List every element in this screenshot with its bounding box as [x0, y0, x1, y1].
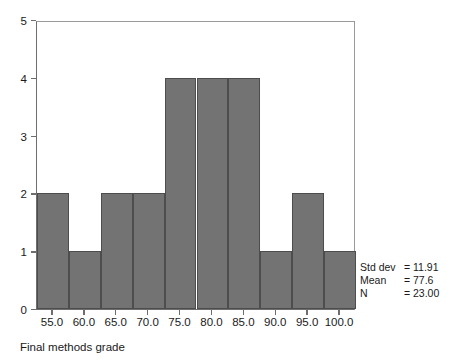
histogram-figure: 012345 55.060.065.070.075.080.085.090.09…: [0, 0, 458, 363]
x-axis-tick-mark: [338, 310, 339, 315]
statistic-name: Mean: [360, 274, 404, 287]
statistic-row: Std dev=11.91: [360, 261, 439, 274]
statistic-equals: =: [404, 261, 413, 274]
x-axis-tick-mark: [306, 310, 307, 315]
statistic-value: 77.6: [413, 274, 433, 287]
statistic-equals: =: [404, 274, 413, 287]
statistics-legend: Std dev=11.91Mean=77.6N=23.00: [360, 261, 439, 300]
x-axis-tick-label: 85.0: [232, 316, 254, 329]
statistic-name: Std dev: [360, 261, 404, 274]
statistic-row: N=23.00: [360, 287, 439, 300]
x-axis-tick-label: 90.0: [264, 316, 286, 329]
x-axis-tick-label: 100.0: [325, 316, 354, 329]
x-axis-tick-label: 60.0: [73, 316, 95, 329]
statistic-value: 23.00: [413, 287, 439, 300]
x-axis-tick-label: 75.0: [168, 316, 190, 329]
x-axis-tick-mark: [115, 310, 116, 315]
x-axis-tick-mark: [51, 310, 52, 315]
x-axis-tick-label: 65.0: [105, 316, 127, 329]
statistic-equals: =: [404, 287, 413, 300]
x-axis-tick-mark: [179, 310, 180, 315]
x-axis: 55.060.065.070.075.080.085.090.095.0100.…: [0, 0, 458, 363]
x-axis-tick-mark: [83, 310, 84, 315]
x-axis-title: Final methods grade: [20, 341, 125, 354]
x-axis-tick-mark: [211, 310, 212, 315]
x-axis-tick-label: 95.0: [296, 316, 318, 329]
x-axis-tick-label: 80.0: [200, 316, 222, 329]
statistic-row: Mean=77.6: [360, 274, 439, 287]
x-axis-tick-mark: [243, 310, 244, 315]
x-axis-tick-mark: [147, 310, 148, 315]
x-axis-tick-label: 55.0: [41, 316, 63, 329]
statistic-name: N: [360, 287, 404, 300]
statistic-value: 11.91: [413, 261, 439, 274]
x-axis-tick-label: 70.0: [136, 316, 158, 329]
x-axis-tick-mark: [275, 310, 276, 315]
